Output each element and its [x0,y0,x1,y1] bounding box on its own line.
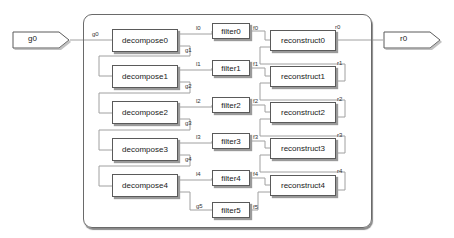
filter-block-1[interactable]: filter1 [212,60,250,76]
signal-label-r4: r4 [337,168,342,174]
signal-label-f0: f0 [253,25,258,31]
block-label: filter0 [221,27,241,36]
block-label: filter2 [221,101,241,110]
signal-label-r3: r3 [337,132,342,138]
signal-label-f4: f4 [253,171,258,177]
block-label: decompose3 [122,145,168,154]
signal-label-g1: g1 [185,47,192,53]
reconstruct-block-2[interactable]: reconstruct2 [270,102,336,123]
decompose-block-4[interactable]: decompose4 [112,174,178,197]
block-label: filter4 [221,174,241,183]
signal-label-l4: l4 [196,171,201,177]
filter-block-3[interactable]: filter3 [212,133,250,149]
signal-label-l1: l1 [196,61,201,67]
filter-block-2[interactable]: filter2 [212,97,250,113]
signal-label-g2: g2 [185,83,192,89]
signal-label-f1: f1 [253,61,258,67]
filter-block-0[interactable]: filter0 [212,23,250,39]
block-label: decompose0 [122,36,168,45]
reconstruct-block-3[interactable]: reconstruct3 [270,138,336,159]
decompose-block-3[interactable]: decompose3 [112,138,178,161]
diagram-canvas: g0 r0 g0 decompose0 decompose1 decompose… [0,0,454,238]
block-label: filter1 [221,64,241,73]
signal-label-f2: f2 [253,98,258,104]
block-label: reconstruct0 [281,36,325,45]
input-port-label: g0 [28,34,37,43]
signal-label-g5: g5 [196,203,203,209]
signal-label-r0: r0 [335,24,340,30]
signal-label-g4: g4 [185,156,192,162]
output-port-label: r0 [400,34,407,43]
block-label: reconstruct4 [281,181,325,190]
block-label: reconstruct2 [281,108,325,117]
block-label: reconstruct3 [281,144,325,153]
signal-label-g0: g0 [92,31,99,37]
input-port-g0[interactable] [11,30,73,52]
signal-label-l3: l3 [196,134,201,140]
block-label: filter5 [221,206,241,215]
block-label: decompose4 [122,181,168,190]
reconstruct-block-0[interactable]: reconstruct0 [270,30,336,51]
reconstruct-block-4[interactable]: reconstruct4 [270,175,336,196]
decompose-block-0[interactable]: decompose0 [112,29,178,52]
output-port-r0[interactable] [382,30,444,52]
block-label: decompose1 [122,72,168,81]
signal-label-f5: f5 [253,204,258,210]
signal-label-r2: r2 [337,96,342,102]
decompose-block-2[interactable]: decompose2 [112,101,178,124]
decompose-block-1[interactable]: decompose1 [112,65,178,88]
signal-label-f3: f3 [253,134,258,140]
block-label: decompose2 [122,108,168,117]
signal-label-l2: l2 [196,98,201,104]
filter-block-5[interactable]: filter5 [212,202,250,218]
reconstruct-block-1[interactable]: reconstruct1 [270,66,336,87]
block-label: filter3 [221,137,241,146]
signal-label-l0: l0 [196,25,201,31]
signal-label-g3: g3 [185,120,192,126]
signal-label-r1: r1 [337,60,342,66]
block-label: reconstruct1 [281,72,325,81]
filter-block-4[interactable]: filter4 [212,170,250,186]
